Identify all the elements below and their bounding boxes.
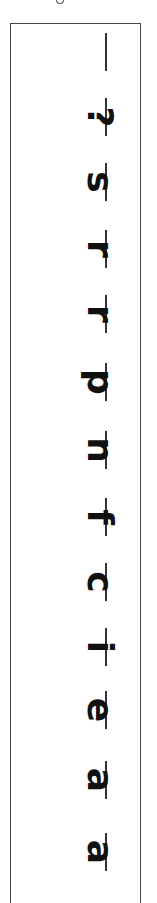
letter-text: p — [82, 369, 118, 395]
letter-text: i — [82, 641, 118, 653]
letter-text: r — [82, 305, 118, 323]
letter-glyph: ? — [75, 98, 113, 136]
letter-text: f — [82, 509, 118, 525]
letter-cell: c — [11, 561, 142, 621]
punch-mark — [56, 0, 64, 4]
letter-cell: r — [11, 293, 142, 353]
letter-text: r — [82, 240, 118, 258]
letter-glyph: i — [75, 628, 113, 666]
letter-cell: r — [11, 228, 142, 288]
letter-glyph: s — [75, 163, 113, 201]
letter-cell: a — [11, 831, 142, 891]
letter-cell-blank — [11, 31, 142, 91]
letter-cell: ? — [11, 96, 142, 156]
letter-glyph: n — [75, 431, 113, 469]
letter-glyph: r — [75, 230, 113, 268]
letter-glyph: a — [75, 761, 113, 799]
letter-glyph: p — [75, 363, 113, 401]
letter-cell: p — [11, 361, 142, 421]
letter-cell: f — [11, 496, 142, 556]
letter-cell: s — [11, 161, 142, 221]
letter-cell: e — [11, 689, 142, 749]
letter-cell: i — [11, 626, 142, 686]
letter-glyph: r — [75, 295, 113, 333]
letter-text: c — [82, 571, 118, 592]
letter-text: a — [82, 768, 118, 792]
letter-strip: ? s r r p n f c i e a a — [10, 23, 141, 903]
letter-text: a — [82, 840, 118, 864]
letter-glyph: e — [75, 691, 113, 729]
letter-cell: n — [11, 429, 142, 489]
letter-glyph — [75, 33, 113, 71]
letter-cell: a — [11, 759, 142, 819]
letter-text: n — [82, 437, 118, 463]
letter-glyph: f — [75, 498, 113, 536]
letter-glyph: a — [75, 833, 113, 871]
letter-text: s — [82, 171, 118, 192]
letter-text: e — [82, 698, 118, 722]
letter-glyph: c — [75, 563, 113, 601]
letter-text: ? — [82, 107, 118, 128]
